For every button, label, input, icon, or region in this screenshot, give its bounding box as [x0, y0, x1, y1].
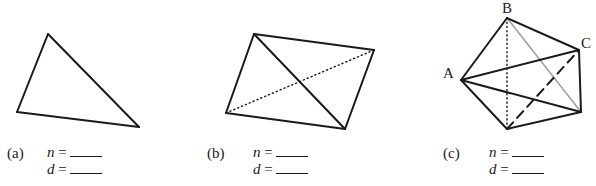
solid-edge	[254, 34, 345, 129]
answer-n-c: n =	[489, 144, 544, 161]
vertex-label-a: A	[443, 66, 454, 81]
solid-edge	[507, 18, 579, 50]
solid-edge	[226, 113, 345, 129]
solid-edge	[48, 34, 139, 127]
solid-edge	[461, 80, 581, 112]
vertex-label-b: B	[502, 1, 512, 16]
answer-d-c: d =	[489, 161, 544, 178]
answer-n-a: n =	[47, 144, 102, 161]
answer-block-c: n = d =	[489, 144, 544, 178]
pentagon-figure-c	[461, 18, 581, 129]
blank-d-c[interactable]	[512, 161, 544, 174]
caption-c: (c)	[443, 146, 460, 161]
solid-edge	[226, 34, 254, 113]
solid-edge	[254, 34, 374, 50]
solid-edge	[17, 34, 48, 112]
blank-n-b[interactable]	[276, 144, 308, 157]
quadrilateral-figure-b	[226, 34, 374, 129]
solid-edge	[17, 112, 139, 127]
blank-d-b[interactable]	[276, 161, 308, 174]
solid-edge	[345, 50, 374, 129]
answer-n-b: n =	[253, 144, 308, 161]
solid-edge	[507, 112, 581, 129]
caption-b: (b)	[207, 146, 225, 161]
answer-block-b: n = d =	[253, 144, 308, 178]
blank-n-a[interactable]	[70, 144, 102, 157]
dashed-edge	[507, 50, 579, 129]
blank-n-c[interactable]	[512, 144, 544, 157]
caption-a: (a)	[7, 146, 24, 161]
triangle-figure-a	[17, 34, 139, 127]
solid-edge	[461, 80, 507, 129]
vertex-label-c: C	[581, 36, 591, 51]
answer-d-a: d =	[47, 161, 102, 178]
blank-d-a[interactable]	[70, 161, 102, 174]
answer-d-b: d =	[253, 161, 308, 178]
answer-block-a: n = d =	[47, 144, 102, 178]
solid-edge	[579, 50, 581, 112]
